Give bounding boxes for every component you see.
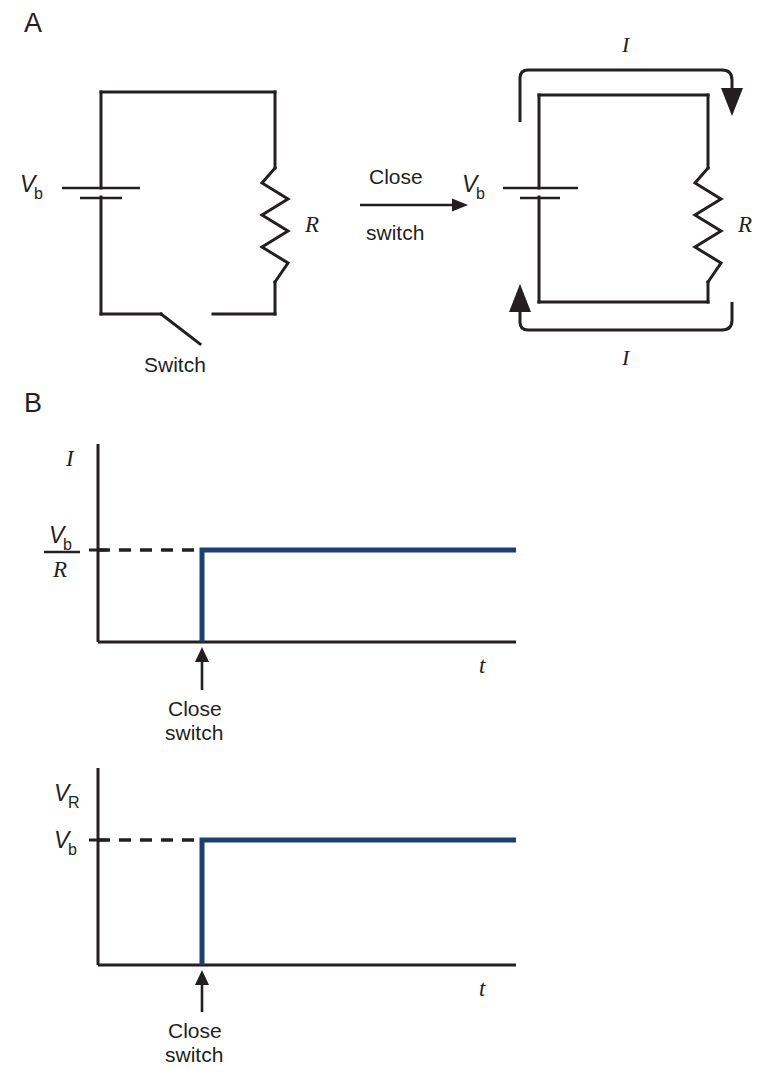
chart2-data-series [202,840,516,965]
chart1-y-tick-numerator-sub: b [63,536,72,553]
up-arrow-icon [195,647,209,690]
closed-resistor-label: R [737,212,752,237]
current-loop-bottom-path [520,302,732,330]
closed-resistor-zigzag [695,168,721,282]
switch-blade [161,314,200,344]
up-arrow-icon [195,970,209,1012]
chart1-annotation-line1: Close [168,697,222,720]
chart2-annotation-line2: switch [165,1043,223,1066]
chart-resistor-voltage-vs-time: V R V b t Close s [54,768,516,1066]
chart2-y-tick-sub: b [68,841,77,858]
chart-current-vs-time: I V b R t Close [44,444,516,744]
chart2-annotation-arrow-head [195,970,209,985]
current-loop-bottom-arrowhead [509,284,531,312]
current-label-top: I [621,32,631,57]
chart1-annotation-line2: switch [165,721,223,744]
chart2-close-switch-annotation: Close switch [165,970,223,1066]
transition-label-line2: switch [366,221,424,244]
closed-battery-label-sub: b [476,185,485,202]
current-loop-top-arrowhead [721,88,743,116]
right-arrow-icon [360,199,468,212]
open-circuit-diagram: V b R Switch [20,92,319,376]
chart1-y-tick-label: V b R [44,522,80,582]
switch-symbol[interactable] [101,314,275,344]
chart2-annotation-line1: Close [168,1019,222,1042]
chart2-y-axis-label-sub: R [68,794,80,811]
chart2-y-tick-label: V b [54,827,77,858]
chart1-x-axis-label: t [479,653,486,678]
chart1-y-axis-label: I [65,446,75,471]
closed-battery-label: V b [462,171,485,202]
battery-label-sub: b [34,185,43,202]
panel-label-a: A [24,8,42,38]
transition-label-line1: Close [369,165,423,188]
battery-label: V b [20,171,43,202]
chart2-x-axis-label: t [479,976,486,1001]
closed-circuit-diagram: V b R I I [462,32,752,370]
panel-label-b: B [24,388,42,418]
right-arrow-head [452,199,468,212]
chart1-data-series [202,550,516,642]
resistor-zigzag [262,168,288,282]
current-loop-bottom [509,284,732,330]
chart1-y-tick-denominator: R [52,557,67,582]
figure-canvas: A V b R [0,0,776,1081]
switch-label: Switch [144,353,206,376]
chart1-close-switch-annotation: Close switch [165,647,223,744]
transition-annotation: Close switch [360,165,468,244]
resistor-label: R [304,212,319,237]
chart2-y-axis-label: V R [54,780,80,811]
chart1-annotation-arrow-head [195,647,209,662]
figure-root: A V b R [0,0,776,1081]
current-label-bottom: I [621,345,631,370]
